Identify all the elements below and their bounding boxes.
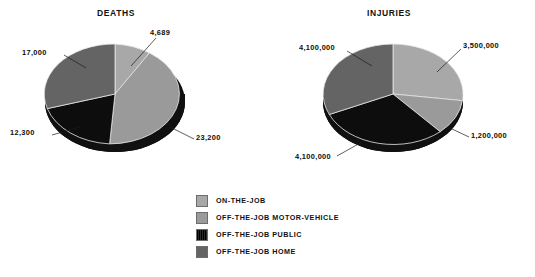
legend-swatch-off-the-job-motor-vehicle [196,212,208,224]
pie-graphic-injuries [317,28,469,160]
legend: ON-THE-JOB OFF-THE-JOB MOTOR-VEHICLE OFF… [196,192,456,260]
chart-title-deaths: DEATHS [0,8,250,18]
value-label-deaths-motor-vehicle: 23,200 [196,133,221,142]
value-label-deaths-public: 12,300 [10,128,35,137]
value-label-deaths-home: 17,000 [22,48,47,57]
legend-item-off-the-job-public: OFF-THE-JOB PUBLIC [196,226,456,243]
chart-title-injuries: INJURIES [255,8,523,18]
legend-item-off-the-job-home: OFF-THE-JOB HOME [196,243,456,260]
legend-swatch-off-the-job-home [196,246,208,258]
value-label-deaths-on-the-job: 4,689 [150,28,170,37]
pie-svg-deaths [39,28,191,160]
value-label-injuries-motor-vehicle: 1,200,000 [471,131,507,140]
legend-swatch-on-the-job [196,195,208,207]
pie-svg-injuries [317,28,469,160]
legend-item-off-the-job-motor-vehicle: OFF-THE-JOB MOTOR-VEHICLE [196,209,456,226]
value-label-injuries-on-the-job: 3,500,000 [463,41,499,50]
legend-label-off-the-job-motor-vehicle: OFF-THE-JOB MOTOR-VEHICLE [216,214,339,221]
legend-label-off-the-job-home: OFF-THE-JOB HOME [216,248,296,255]
slice-injuries-on-the-job [393,44,463,101]
legend-label-on-the-job: ON-THE-JOB [216,197,266,204]
pie-chart-deaths: DEATHS [0,0,268,185]
legend-swatch-off-the-job-public [196,229,208,241]
legend-label-off-the-job-public: OFF-THE-JOB PUBLIC [216,231,302,238]
value-label-injuries-public: 4,100,000 [295,152,331,161]
charts-container: DEATHS INJURIES [0,0,535,185]
value-label-injuries-home: 4,100,000 [299,43,335,52]
pie-graphic-deaths [39,28,191,160]
legend-item-on-the-job: ON-THE-JOB [196,192,456,209]
